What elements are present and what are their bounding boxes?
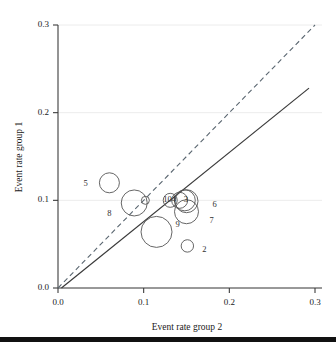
point-label-5: 5 [83,178,87,188]
line-of-equality [58,25,315,288]
point-label-6: 6 [213,199,217,209]
point-label-8: 8 [107,208,111,218]
data-point-circles [99,173,198,252]
x-tick-label-0.2: 0.2 [216,297,242,307]
chart-figure: Event rate group 1 Event rate group 2 0.… [0,0,336,345]
trend-lines [58,25,315,288]
y-tick-label-0.0: 0.0 [23,282,49,292]
bottom-edge-bar [0,337,336,342]
x-tick-label-0.1: 0.1 [131,297,157,307]
x-axis-title: Event rate group 2 [58,322,316,332]
y-tick-label-0.3: 0.3 [23,19,49,29]
y-axis-title: Event rate group 1 [14,110,24,204]
data-point-9[interactable] [141,216,172,247]
point-label-7: 7 [210,215,214,225]
point-label-9: 9 [176,219,180,229]
x-tick-label-0.0: 0.0 [45,297,71,307]
x-tick-label-0.3: 0.3 [302,297,328,307]
axis-lines [58,25,322,288]
data-point-2[interactable] [181,240,193,252]
gridlines [58,25,322,288]
point-label-10: 10 [163,194,172,204]
point-label-2: 2 [202,244,206,254]
y-tick-label-0.1: 0.1 [23,194,49,204]
point-label-3: 3 [184,194,188,204]
data-point-8[interactable] [121,190,147,216]
point-label-4: 4 [172,194,176,204]
y-tick-label-0.2: 0.2 [23,107,49,117]
regression-line [61,88,309,288]
data-point-5[interactable] [99,173,119,193]
plot-canvas [0,0,336,345]
